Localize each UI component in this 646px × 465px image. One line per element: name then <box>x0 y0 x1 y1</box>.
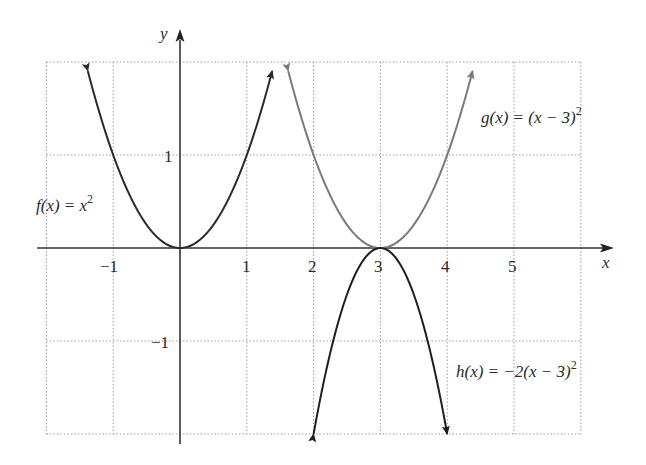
x-tick-label: 4 <box>441 257 450 276</box>
parabola-chart: x y −1 1 2 3 4 5 1 −1 f(x) = x2 g(x) = (… <box>0 0 646 465</box>
y-tick-label: −1 <box>151 333 169 352</box>
label-h: h(x) = −2(x − 3)2 <box>456 358 577 381</box>
axes: x y <box>37 24 614 444</box>
y-axis-label: y <box>158 24 168 43</box>
label-g: g(x) = (x − 3)2 <box>481 104 582 127</box>
label-g-main: g(x) = (x − 3) <box>481 108 576 127</box>
x-tick-label: −1 <box>100 257 118 276</box>
x-tick-label: 3 <box>374 257 383 276</box>
label-f-main: f(x) = x <box>36 196 88 215</box>
label-f-sup: 2 <box>87 192 93 206</box>
x-axis-label: x <box>601 253 610 272</box>
x-tick-label: 2 <box>308 257 317 276</box>
tick-labels: −1 1 2 3 4 5 1 −1 <box>100 147 517 352</box>
x-tick-label: 5 <box>508 257 517 276</box>
label-f: f(x) = x2 <box>36 192 93 215</box>
y-tick-label: 1 <box>164 147 173 166</box>
label-h-sup: 2 <box>571 358 577 372</box>
x-tick-label: 1 <box>242 257 251 276</box>
label-h-main: h(x) = −2(x − 3) <box>456 362 571 381</box>
label-g-sup: 2 <box>576 104 582 118</box>
